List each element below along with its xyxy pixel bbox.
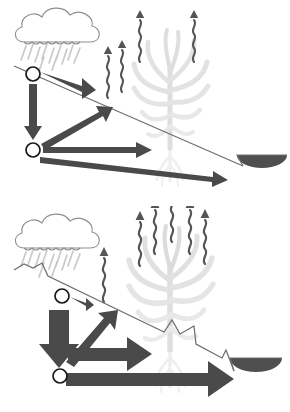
rain-cloud-icon xyxy=(15,214,99,250)
lateral-flow-arrow xyxy=(40,157,228,187)
soil-water-storage-arrow xyxy=(68,337,152,371)
runoff-arrow xyxy=(70,297,94,311)
capillary-rise-arrow xyxy=(41,106,113,150)
soil-water-node xyxy=(53,369,67,383)
rain-cloud-icon xyxy=(15,8,99,44)
collection-pond xyxy=(237,155,287,168)
crop-silhouette xyxy=(134,30,208,186)
soil-water-node xyxy=(26,143,40,157)
rainfall-streaks xyxy=(21,250,80,277)
infiltration-arrow xyxy=(24,84,42,140)
surface-water-node xyxy=(55,289,69,303)
runoff-arrow xyxy=(40,72,96,99)
terraced-land-panel xyxy=(0,206,290,412)
lateral-flow-arrow xyxy=(66,361,234,397)
crop-silhouette xyxy=(129,226,213,392)
collection-pond xyxy=(230,358,282,372)
sloping-land-panel xyxy=(0,0,290,206)
surface-water-node xyxy=(26,67,40,81)
soil-water-balance-diagram xyxy=(0,0,290,412)
soil-water-storage-arrow xyxy=(43,142,152,158)
